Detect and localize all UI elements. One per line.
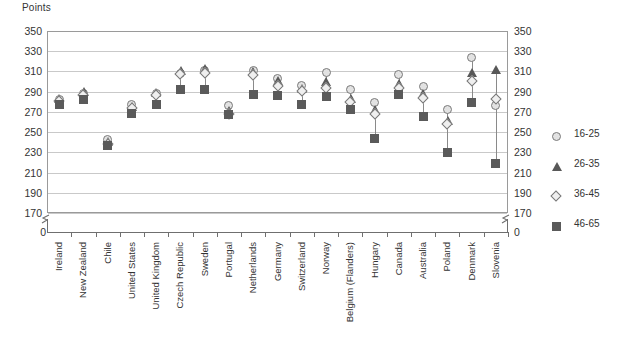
gridline <box>48 71 507 72</box>
x-axis-category-label: New Zealand <box>78 242 88 298</box>
square-marker-icon <box>224 110 233 119</box>
gridline <box>48 173 507 174</box>
y-axis-zero-label: 0 <box>22 226 46 238</box>
x-axis-tick-mark <box>71 232 72 237</box>
gridline <box>48 213 507 214</box>
square-marker-icon <box>79 95 88 104</box>
gridline <box>48 193 507 194</box>
y-axis-lower-segment <box>47 219 48 233</box>
legend-item[interactable]: 16-25 <box>552 126 626 156</box>
triangle-marker-icon <box>491 65 501 74</box>
circle-marker-icon <box>552 132 561 141</box>
x-axis-category-label: Norway <box>321 242 331 274</box>
x-axis-tick-mark <box>217 232 218 237</box>
square-marker-icon <box>322 92 331 101</box>
square-marker-icon <box>552 222 561 231</box>
gridline <box>48 152 507 153</box>
y-axis-tick-label-left: 270 <box>4 106 42 118</box>
x-axis-category-label: Hungary <box>370 242 380 278</box>
y-axis-tick-label-left: 310 <box>4 65 42 77</box>
square-marker-icon <box>200 85 209 94</box>
x-axis-tick-mark <box>144 232 145 237</box>
legend-item[interactable]: 36-45 <box>552 186 626 216</box>
circle-marker-icon <box>322 68 331 77</box>
y-axis-tick-label-right: 290 <box>514 86 552 98</box>
y-axis-unit-label: Points <box>22 2 51 13</box>
x-axis-category-label: Poland <box>442 242 452 272</box>
x-axis-tick-mark <box>387 232 388 237</box>
y-axis-tick-label-right: 230 <box>514 146 552 158</box>
x-axis-tick-mark <box>435 232 436 237</box>
x-axis-category-label: Slovenia <box>491 242 501 278</box>
category-connector-stem <box>496 69 497 163</box>
gridline <box>48 112 507 113</box>
y-axis-tick-label-left: 190 <box>4 187 42 199</box>
x-axis-category-label: Germany <box>273 242 283 281</box>
legend-item[interactable]: 26-35 <box>552 156 626 186</box>
y-axis-tick-label-right: 270 <box>514 106 552 118</box>
x-axis-tick-mark <box>193 232 194 237</box>
diamond-marker-icon <box>550 190 561 201</box>
square-marker-icon <box>176 85 185 94</box>
circle-marker-icon <box>467 53 476 62</box>
legend-item-label: 26-35 <box>574 158 600 169</box>
y-axis-zero-label: 0 <box>514 226 538 238</box>
y-axis-tick-label-right: 330 <box>514 45 552 57</box>
square-marker-icon <box>127 109 136 118</box>
x-axis-tick-mark <box>459 232 460 237</box>
square-marker-icon <box>273 91 282 100</box>
x-axis-tick-mark <box>411 232 412 237</box>
x-axis-category-label: Belgium (Flanders) <box>345 242 355 322</box>
x-axis-tick-mark <box>508 232 509 237</box>
x-axis-tick-mark <box>265 232 266 237</box>
square-marker-icon <box>394 90 403 99</box>
scatter-chart: Points 350350330330310310290290270270250… <box>0 0 629 343</box>
x-axis-tick-mark <box>168 232 169 237</box>
y-axis-tick-label-right: 190 <box>514 187 552 199</box>
square-marker-icon <box>346 105 355 114</box>
x-axis-tick-mark <box>362 232 363 237</box>
x-axis-category-label: Denmark <box>467 242 477 281</box>
y-axis-tick-label-right: 250 <box>514 126 552 138</box>
square-marker-icon <box>297 100 306 109</box>
legend-item[interactable]: 46-65 <box>552 216 626 246</box>
plot-area <box>47 31 508 213</box>
y-axis-tick-label-left: 170 <box>4 207 42 219</box>
x-axis-category-label: Chile <box>103 242 113 264</box>
y-axis-tick-label-right: 350 <box>514 25 552 37</box>
circle-marker-icon <box>346 85 355 94</box>
square-marker-icon <box>370 134 379 143</box>
legend-item-label: 36-45 <box>574 188 600 199</box>
square-marker-icon <box>103 141 112 150</box>
square-marker-icon <box>443 148 452 157</box>
square-marker-icon <box>249 90 258 99</box>
x-axis-category-label: United States <box>127 242 137 299</box>
x-axis-tick-mark <box>96 232 97 237</box>
x-axis-tick-mark <box>120 232 121 237</box>
x-axis-tick-mark <box>241 232 242 237</box>
x-axis-category-label: Czech Republic <box>175 242 185 309</box>
y-axis-tick-label-right: 310 <box>514 65 552 77</box>
y-axis-tick-label-left: 350 <box>4 25 42 37</box>
x-axis-category-label: Switzerland <box>297 242 307 291</box>
x-axis-line <box>47 232 508 233</box>
x-axis-category-label: Sweden <box>200 242 210 276</box>
legend-item-label: 16-25 <box>574 128 600 139</box>
x-axis-category-label: Portugal <box>224 242 234 277</box>
square-marker-icon <box>467 98 476 107</box>
y-axis-tick-label-left: 210 <box>4 167 42 179</box>
gridline <box>48 51 507 52</box>
x-axis-tick-mark <box>484 232 485 237</box>
gridline <box>48 132 507 133</box>
chart-legend: 16-2526-3536-4546-65 <box>552 126 626 246</box>
square-marker-icon <box>491 159 500 168</box>
x-axis-tick-mark <box>314 232 315 237</box>
x-axis-category-label: Australia <box>418 242 428 279</box>
y-axis-tick-label-right: 210 <box>514 167 552 179</box>
y-axis-tick-label-left: 330 <box>4 45 42 57</box>
x-axis-tick-mark <box>290 232 291 237</box>
x-axis-category-label: Ireland <box>54 242 64 271</box>
y-axis-tick-label-left: 230 <box>4 146 42 158</box>
y-axis-tick-label-left: 290 <box>4 86 42 98</box>
legend-item-label: 46-65 <box>574 218 600 229</box>
